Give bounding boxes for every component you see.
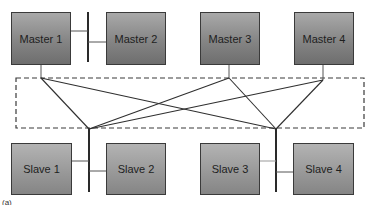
slave-3-node: Slave 3 (200, 143, 260, 195)
slave-4-label: Slave 4 (305, 163, 342, 175)
slave-3-label: Slave 3 (212, 163, 249, 175)
figure-caption: (a) (2, 198, 12, 205)
master-1-label: Master 1 (20, 33, 63, 45)
master-3-node: Master 3 (200, 12, 260, 65)
master-3-label: Master 3 (209, 33, 252, 45)
slave-2-label: Slave 2 (118, 163, 155, 175)
master-4-node: Master 4 (294, 12, 354, 65)
crossbar-links (41, 78, 323, 129)
slave-1-node: Slave 1 (11, 143, 72, 195)
slave-4-node: Slave 4 (293, 143, 354, 195)
slave-1-label: Slave 1 (23, 163, 60, 175)
interconnect-box (16, 78, 364, 128)
master-4-label: Master 4 (303, 33, 346, 45)
master-2-label: Master 2 (115, 33, 158, 45)
slave-2-node: Slave 2 (106, 143, 166, 195)
master-1-node: Master 1 (11, 12, 71, 65)
master-2-node: Master 2 (106, 12, 166, 65)
